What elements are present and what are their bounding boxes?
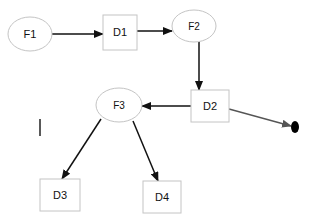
node-f1-label: F1 [24,28,37,40]
diagram-canvas: F1 D1 F2 D2 F3 D3 D4 [0,0,309,221]
node-f3-label: F3 [113,100,125,111]
edges [52,31,291,181]
edge-d2-end[interactable] [229,109,291,126]
node-end[interactable] [291,121,299,133]
node-f2-label: F2 [188,21,200,32]
node-d4-label: D4 [155,191,169,203]
node-d2-label: D2 [203,100,217,112]
node-d4[interactable]: D4 [143,181,181,213]
node-d2[interactable]: D2 [191,90,229,122]
node-d3-label: D3 [53,189,67,201]
edge-f3-d4[interactable] [133,121,158,181]
node-f1[interactable]: F1 [8,17,52,51]
edge-f3-d3[interactable] [62,119,101,179]
node-f3[interactable]: F3 [96,88,142,122]
node-d3[interactable]: D3 [40,179,80,211]
node-d1-label: D1 [113,26,127,38]
terminal-dot-icon [291,121,299,133]
node-d1[interactable]: D1 [103,15,137,50]
node-f2[interactable]: F2 [172,10,216,42]
